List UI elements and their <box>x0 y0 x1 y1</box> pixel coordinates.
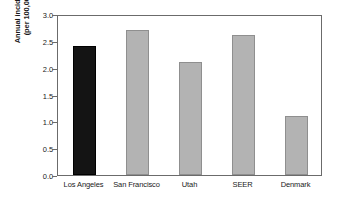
bar-series <box>58 16 321 175</box>
x-axis-tick-label: Los Angeles <box>64 180 104 189</box>
bar-los-angeles <box>73 46 95 175</box>
y-axis-tick-labels: 0.00.51.01.52.02.53.0 <box>33 0 53 204</box>
bar-san-francisco <box>126 30 148 175</box>
bar-seer <box>232 35 254 175</box>
bar-denmark <box>285 116 307 175</box>
y-axis-tick-label: 2.5 <box>43 37 53 46</box>
plot-area <box>57 15 322 176</box>
y-axis-title-line-2: (per 100,000) <box>23 0 32 35</box>
x-axis-tick-label: San Francisco <box>113 180 160 189</box>
y-axis-tick-label: 0.0 <box>43 172 53 181</box>
y-axis-tick-label: 2.0 <box>43 64 53 73</box>
y-axis-tick-label: 1.5 <box>43 91 53 100</box>
x-axis-tick-labels: Los AngelesSan FranciscoUtahSEERDenmark <box>57 180 322 196</box>
x-axis-tick-label: Utah <box>182 180 197 189</box>
x-axis-tick-label: Denmark <box>281 180 311 189</box>
y-axis-tick-label: 1.0 <box>43 118 53 127</box>
x-axis-tick-label: SEER <box>232 180 252 189</box>
y-axis-tick-label: 0.5 <box>43 145 53 154</box>
bar-utah <box>179 62 201 175</box>
y-axis-tick-label: 3.0 <box>43 11 53 20</box>
bar-chart-figure: Annual incidence (per 100,000) 0.00.51.0… <box>0 0 345 204</box>
